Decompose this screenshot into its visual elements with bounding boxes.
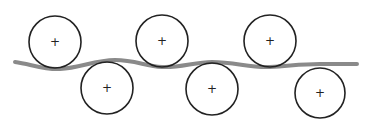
roller-bottom-3: + [295, 68, 345, 118]
roller-bottom-1: + [81, 62, 133, 114]
roller-center-mark: + [265, 34, 275, 48]
roller-center-mark: + [50, 35, 60, 49]
roller-center-mark: + [102, 81, 112, 95]
roller-center-mark: + [315, 86, 325, 100]
roller-top-1: + [29, 16, 81, 68]
roller-center-mark: + [157, 34, 167, 48]
roller-bottom-2: + [186, 63, 238, 115]
roller-top-2: + [136, 15, 188, 67]
roller-center-mark: + [207, 82, 217, 96]
roller-top-3: + [244, 15, 296, 67]
roller-web-diagram: ++++++ [0, 0, 368, 126]
